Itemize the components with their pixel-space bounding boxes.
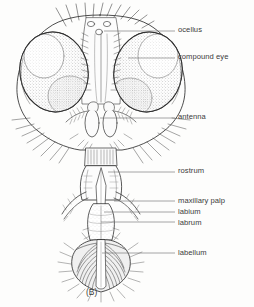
label-antenna: antenna (178, 113, 206, 121)
label-rostrum: rostrum (178, 167, 204, 175)
leader-line-layer (0, 0, 254, 307)
figure-container: ocelluscompound eyeantennarostrummaxilla… (0, 0, 254, 307)
figure-caption: (B) (86, 288, 97, 296)
label-maxillary-palp: maxillary palp (178, 197, 225, 205)
label-ocellus: ocellus (178, 26, 202, 34)
label-labrum: labrum (178, 219, 202, 227)
label-labium: labium (178, 208, 201, 216)
label-labellum: labellum (178, 249, 207, 257)
label-compound-eye: compound eye (178, 53, 228, 61)
